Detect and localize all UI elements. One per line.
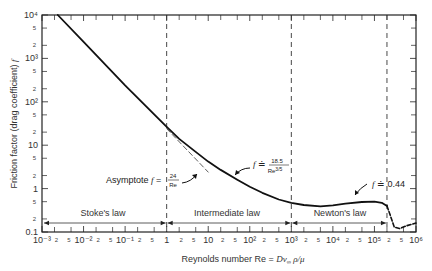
svg-text:f ≐ 0.44: f ≐ 0.44	[372, 179, 405, 189]
arrowhead-left-icon	[292, 221, 297, 225]
x-minor-label: 5	[234, 237, 238, 243]
y-minor-label: 2	[33, 216, 37, 222]
x-minor-label: 5	[192, 237, 196, 243]
x-minor-label: 5	[150, 237, 154, 243]
x-tick-label: 10⁵	[368, 235, 382, 245]
y-tick-label: 10⁴	[24, 10, 38, 20]
x-tick-label: 10⁻²	[75, 235, 93, 245]
x-minor-label: 5	[358, 237, 362, 243]
x-minor-label: 2	[138, 237, 142, 243]
y-tick-label: 1	[33, 184, 38, 194]
x-tick-label: 10⁴	[326, 235, 340, 245]
x-tick-label: 10	[203, 235, 213, 245]
arrowhead-left-icon	[168, 221, 173, 225]
y-minor-label: 5	[33, 68, 37, 74]
y-minor-label: 5	[33, 155, 37, 161]
region-label-intermediate: Intermediate law	[194, 208, 261, 218]
arrowhead-right-icon	[285, 221, 290, 225]
x-axis-title: Reynolds number Re = Dv∞ ρ/μ	[181, 254, 305, 265]
x-tick-label: 10²	[243, 235, 256, 245]
region-arrows	[44, 221, 386, 225]
svg-text:18.5: 18.5	[271, 158, 283, 164]
svg-text:Re3/5: Re3/5	[268, 166, 283, 174]
x-minor-label: 5	[275, 237, 279, 243]
x-minor-label: 5	[109, 237, 113, 243]
annotation-newton: f ≐ 0.44	[355, 179, 405, 195]
annotation-asymptote: Asymptote f = 24 Re	[106, 173, 197, 188]
x-minor-label: 2	[96, 237, 100, 243]
curve-dashed-thin	[167, 129, 209, 172]
svg-text:24: 24	[170, 173, 177, 179]
y-minor-label: 2	[33, 129, 37, 135]
curve-dashed	[387, 206, 416, 229]
y-axis-title: Friction factor (drag coefficient) f	[9, 58, 19, 188]
x-minor-label: 5	[400, 237, 404, 243]
region-label-stokes: Stoke's law	[80, 208, 126, 218]
x-tick-label: 10⁻¹	[116, 235, 134, 245]
plot-frame	[42, 15, 416, 232]
x-minor-label: 5	[67, 237, 71, 243]
x-minor-label: 2	[346, 237, 350, 243]
y-minor-label: 2	[33, 42, 37, 48]
x-minor-label: 2	[304, 237, 308, 243]
x-tick-label: 10⁶	[409, 235, 423, 245]
drag-coefficient-chart: 0.125125102510²2510³2510⁴ 10⁻³2510⁻²2510…	[0, 0, 432, 271]
x-tick-label: 10³	[285, 235, 298, 245]
y-minor-label: 5	[33, 199, 37, 205]
y-minor-label: 2	[33, 86, 37, 92]
curves	[58, 15, 416, 229]
x-minor-label: 2	[180, 237, 184, 243]
svg-text:f ≐: f ≐	[253, 159, 266, 169]
svg-text:Re: Re	[169, 182, 177, 188]
y-minor-label: 5	[33, 112, 37, 118]
region-label-newton: Newton's law	[314, 208, 367, 218]
arrowhead-right-icon	[161, 221, 166, 225]
y-tick-label: 10	[28, 140, 38, 150]
y-tick-label: 10²	[25, 97, 38, 107]
svg-text:Asymptote f =: Asymptote f =	[106, 175, 161, 185]
x-minor-label: 2	[221, 237, 225, 243]
arrowhead-left-icon	[44, 221, 49, 225]
plot-border	[42, 15, 416, 232]
y-minor-label: 2	[33, 173, 37, 179]
y-minor-label: 5	[33, 25, 37, 31]
x-minor-label: 2	[387, 237, 391, 243]
x-tick-label: 1	[164, 235, 169, 245]
x-tick-label: 10⁻³	[33, 235, 51, 245]
arrowhead-right-icon	[381, 221, 386, 225]
y-tick-label: 10³	[25, 53, 38, 63]
x-minor-label: 5	[317, 237, 321, 243]
annotation-intermediate: f ≐ 18.5 Re3/5	[235, 158, 289, 175]
x-minor-label: 2	[263, 237, 267, 243]
x-minor-label: 2	[55, 237, 59, 243]
